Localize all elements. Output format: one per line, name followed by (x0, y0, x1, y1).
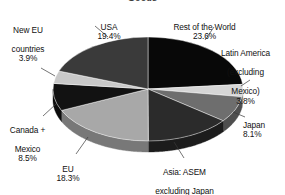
slice-label-usa: USA 19.4% (86, 13, 132, 51)
slice-label-eu: EU 18.3% (48, 155, 88, 193)
slice-label-rest-of-world-pct: 23.6% (156, 32, 253, 42)
slice-label-japan-pct: 8.1% (243, 130, 285, 140)
slice-label-new-eu-line1: New EU (13, 25, 43, 35)
leader-line-eu (76, 137, 88, 154)
slice-label-new-eu-line2: countries (12, 44, 45, 54)
slice-label-canada-mexico: Canada + Mexico 8.5% (0, 116, 55, 174)
slice-label-canada-mexico-line1: Canada + (10, 125, 45, 135)
slice-label-latin-america-pct: 3.8% (206, 97, 285, 107)
slice-label-usa-name: USA (101, 22, 118, 32)
leader-line-canada-mexico (43, 104, 56, 116)
pie-chart-figure: Goods Rest of the World 23.6%Latin Ameri… (0, 0, 285, 195)
slice-label-japan-name: Japan (243, 120, 265, 130)
slice-label-canada-mexico-line2: Mexico (15, 144, 41, 154)
slice-label-asia-asem-line1: Asia: ASEM (163, 167, 206, 177)
slice-label-japan: Japan 8.1% (243, 111, 285, 149)
slice-label-new-eu-pct: 3.9% (0, 54, 56, 64)
slice-label-latin-america-line2: (excluding (227, 67, 264, 77)
slice-label-eu-name: EU (62, 164, 73, 174)
slice-label-asia-asem: Asia: ASEM excluding Japan 14.5% (131, 158, 238, 195)
slice-label-new-eu-countries: New EU countries 3.9% (0, 16, 56, 74)
slice-label-latin-america-line3: Mexico) (231, 86, 259, 96)
slice-label-usa-pct: 19.4% (86, 32, 132, 42)
slice-label-rest-of-world: Rest of the World 23.6% (156, 13, 253, 51)
slice-label-rest-of-world-name: Rest of the World (173, 22, 235, 32)
slice-label-eu-pct: 18.3% (48, 174, 88, 184)
slice-label-asia-asem-line2: excluding Japan (155, 186, 213, 195)
slice-label-canada-mexico-pct: 8.5% (0, 154, 55, 164)
